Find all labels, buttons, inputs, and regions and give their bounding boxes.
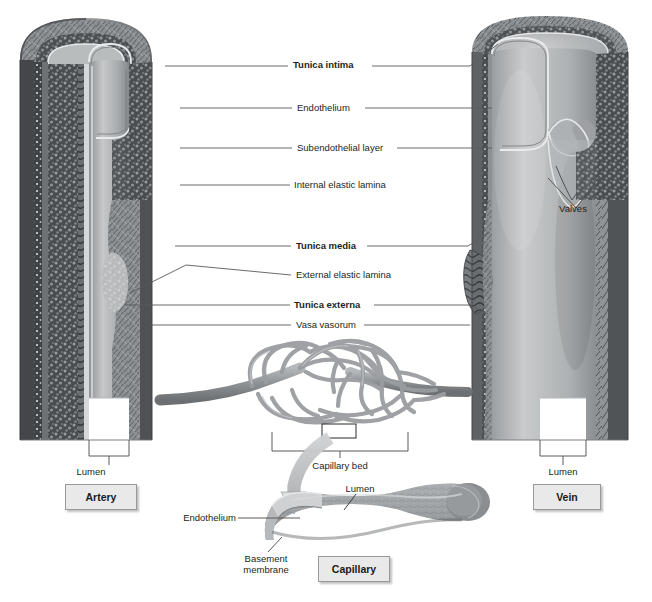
label-tunica-intima: Tunica intima	[293, 59, 354, 70]
capillary-basement-membrane-label: Basement membrane	[243, 553, 288, 575]
vein-lumen-bracket	[540, 440, 586, 465]
capillary-box-label: Capillary	[318, 556, 390, 582]
vein-valves-label: Valves	[559, 203, 587, 214]
capillary-lumen-label: Lumen	[345, 483, 374, 494]
artery-box-label: Artery	[65, 484, 137, 510]
capillary-endothelium-label: Endothelium	[183, 512, 236, 523]
capillary-bed-label: Capillary bed	[312, 460, 367, 471]
artery-lumen-bracket	[89, 440, 129, 465]
label-vasa-vasorum: Vasa vasorum	[296, 319, 356, 330]
label-external-elastic-lamina: External elastic lamina	[296, 269, 391, 280]
label-tunica-media: Tunica media	[296, 240, 356, 251]
label-tunica-externa: Tunica externa	[294, 299, 360, 310]
artery-illustration	[20, 18, 152, 440]
label-subendothelial-layer: Subendothelial layer	[297, 142, 383, 153]
vein-illustration	[464, 16, 628, 440]
artery-lumen-label: Lumen	[76, 466, 105, 477]
basement-membrane-line2: membrane	[243, 564, 288, 575]
basement-membrane-line1: Basement	[245, 553, 288, 564]
label-endothelium: Endothelium	[297, 102, 350, 113]
figure-canvas: Tunica intima Endothelium Subendothelial…	[0, 0, 652, 602]
vein-lumen-label: Lumen	[548, 466, 577, 477]
label-internal-elastic-lamina: Internal elastic lamina	[294, 179, 386, 190]
vein-box-label: Vein	[533, 484, 601, 510]
